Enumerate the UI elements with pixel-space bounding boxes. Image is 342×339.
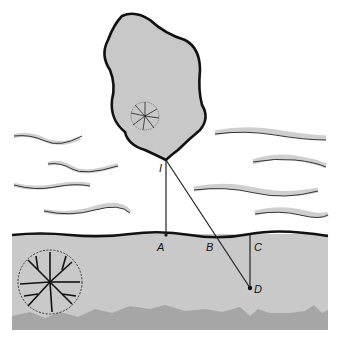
point-a-marker <box>164 233 167 236</box>
ground-layer <box>12 231 328 330</box>
label-a: A <box>156 241 164 253</box>
label-i: I <box>159 162 162 174</box>
label-d: D <box>254 283 262 295</box>
point-d-marker <box>248 286 252 290</box>
diagram-canvas: I A B C D <box>0 0 342 339</box>
label-c: C <box>254 241 262 253</box>
label-b: B <box>206 241 213 253</box>
diagram-svg: I A B C D <box>0 0 342 339</box>
region-blob <box>104 14 205 160</box>
